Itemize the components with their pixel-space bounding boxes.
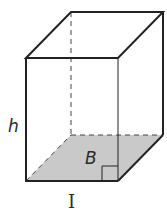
height-label: h (8, 116, 19, 136)
top-face (26, 12, 163, 58)
prism-diagram: h B I (0, 0, 167, 214)
length-label: I (68, 191, 75, 212)
base-label: B (85, 148, 97, 168)
